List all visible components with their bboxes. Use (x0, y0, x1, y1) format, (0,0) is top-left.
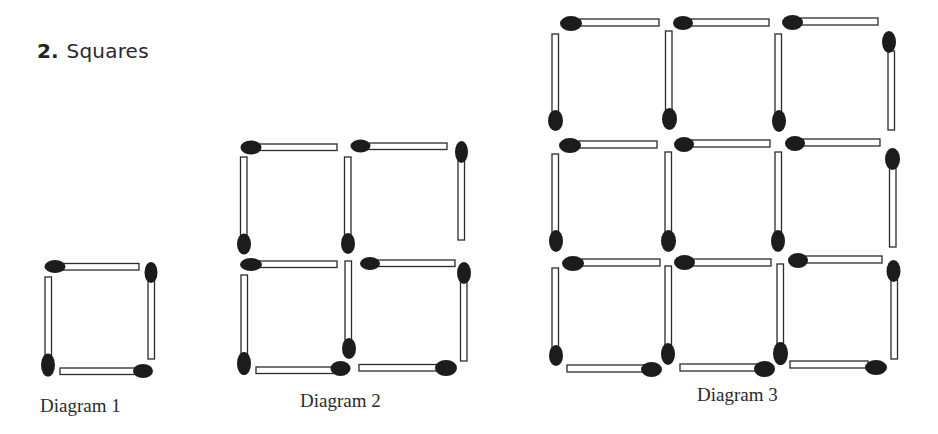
matchstick-icon (661, 152, 676, 252)
matchstick-icon (885, 148, 900, 247)
matchstick-icon (674, 137, 770, 152)
diagram-3: Diagram 3 (0, 0, 938, 434)
matchstick-icon (674, 255, 771, 270)
matchstick-icon (661, 266, 675, 365)
matchstick-icon (782, 15, 878, 30)
matchstick-icon (562, 256, 660, 271)
matchstick-icon (559, 138, 657, 153)
matchstick-icon (673, 16, 769, 30)
matchstick-icon (790, 360, 887, 375)
diagram-3-matchsticks (0, 0, 938, 434)
matchstick-icon (662, 31, 677, 130)
diagram-3-label: Diagram 3 (697, 384, 778, 406)
matchstick-icon (785, 136, 880, 151)
matchstick-icon (567, 362, 662, 377)
matchstick-icon (773, 264, 788, 365)
matchstick-icon (887, 260, 901, 359)
matchstick-icon (549, 268, 563, 366)
matchstick-icon (772, 34, 786, 132)
matchstick-icon (788, 253, 882, 268)
matchstick-icon (548, 34, 563, 131)
matchstick-icon (549, 154, 563, 252)
matchstick-icon (560, 16, 659, 31)
matchstick-icon (882, 31, 896, 130)
matchstick-icon (680, 361, 775, 377)
matchstick-icon (771, 152, 785, 252)
